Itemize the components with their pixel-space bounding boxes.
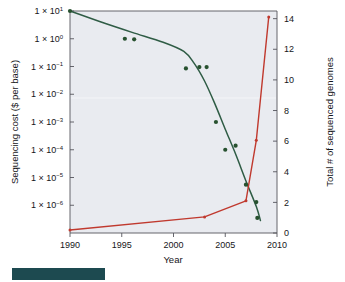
datapoint-sequencing-cost — [197, 65, 201, 69]
y-axis-left-title: Sequencing cost ($ per base) — [9, 60, 20, 184]
datapoint-sequencing-cost — [184, 66, 188, 70]
datapoint-sequencing-cost — [244, 183, 248, 187]
sequencing-cost-chart: 1 × 1011 × 1001 × 10−11 × 10−21 × 10−31 … — [0, 0, 345, 282]
datapoint-sequencing-cost — [68, 9, 72, 13]
y-left-ticklabel: 1 × 10−1 — [31, 61, 64, 71]
y-right-ticklabel: 14 — [284, 14, 294, 24]
x-axis-title: Year — [163, 254, 182, 265]
y-axis-left-ticklabels: 1 × 1011 × 1001 × 10−11 × 10−21 × 10−31 … — [31, 6, 64, 211]
y-right-ticklabel: 4 — [284, 167, 289, 177]
figure-container: 1 × 1011 × 1001 × 10−11 × 10−21 × 10−31 … — [0, 0, 345, 282]
y-right-ticklabel: 6 — [284, 136, 289, 146]
datapoint-sequencing-cost — [223, 148, 227, 152]
datapoint-sequencing-cost — [214, 120, 218, 124]
y-right-ticklabel: 8 — [284, 106, 289, 116]
y-left-ticklabel: 1 × 10−4 — [31, 145, 64, 155]
y-right-ticklabel: 10 — [284, 75, 294, 85]
x-ticklabel: 1990 — [60, 240, 80, 250]
datapoint-genome-count — [255, 139, 258, 142]
y-axis-right-title: Total # of sequenced genomes — [324, 57, 335, 187]
datapoint-sequencing-cost — [205, 65, 209, 69]
datapoint-genome-count — [203, 215, 206, 218]
y-left-ticklabel: 1 × 101 — [34, 6, 63, 16]
datapoint-genome-count — [244, 199, 247, 202]
datapoint-genome-count — [267, 16, 270, 19]
datapoint-sequencing-cost — [132, 37, 136, 41]
y-left-ticklabel: 1 × 10−6 — [31, 200, 64, 210]
y-right-ticklabel: 0 — [284, 228, 289, 238]
x-ticklabel: 2010 — [267, 240, 287, 250]
datapoint-sequencing-cost — [123, 37, 127, 41]
y-left-ticklabel: 1 × 100 — [34, 34, 63, 44]
datapoint-genome-count — [69, 228, 72, 231]
y-left-ticklabel: 1 × 10−3 — [31, 117, 64, 127]
y-axis-right-ticklabels: 02468101214 — [284, 14, 294, 238]
x-ticklabel: 2000 — [163, 240, 183, 250]
y-left-ticklabel: 1 × 10−5 — [31, 172, 64, 182]
x-ticklabel: 1995 — [112, 240, 132, 250]
y-left-ticklabel: 1 × 10−2 — [31, 89, 64, 99]
x-ticklabel: 2005 — [215, 240, 235, 250]
datapoint-sequencing-cost — [234, 144, 238, 148]
bottom-accent-bar — [12, 268, 105, 280]
x-axis-ticks — [70, 233, 277, 237]
datapoint-sequencing-cost — [255, 216, 259, 220]
y-right-ticklabel: 2 — [284, 198, 289, 208]
y-right-ticklabel: 12 — [284, 44, 294, 54]
datapoint-sequencing-cost — [254, 200, 258, 204]
x-axis-ticklabels: 19901995200020052010 — [60, 240, 287, 250]
